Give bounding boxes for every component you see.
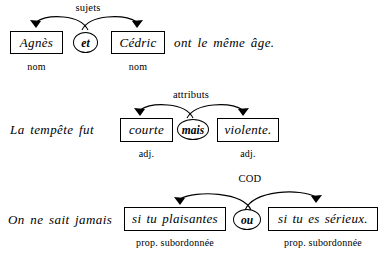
- function-label-row-1: sujets: [52, 3, 124, 14]
- conjunction-ellipse-row-1[interactable]: et: [73, 32, 98, 53]
- arc-left-row-2: [140, 105, 193, 118]
- leading-text-row-3: On ne sait jamais: [8, 213, 112, 226]
- arc-left-row-1: [36, 17, 88, 30]
- diagram-row-subjects: sujets Agnès et Cédric ont le même âge. …: [0, 0, 385, 86]
- trailing-text-row-1: ont le même âge.: [174, 36, 274, 49]
- arrowhead-left-row-3: [174, 197, 185, 205]
- function-label-row-2: attributs: [155, 90, 227, 101]
- constituent-box-row-2-1[interactable]: violente.: [217, 118, 279, 142]
- constituent-box-row-3-0[interactable]: si tu plaisantes: [124, 207, 226, 231]
- pos-label-row-2-1: adj.: [217, 149, 279, 159]
- diagram-row-attributes: attributs La tempête fut courte mais vio…: [0, 86, 385, 166]
- arrowhead-left-row-2: [134, 108, 145, 116]
- pos-label-row-1-1: nom: [111, 62, 165, 72]
- pos-label-row-3-0: prop. subordonnée: [114, 238, 236, 248]
- conjunction-ellipse-row-2[interactable]: mais: [177, 119, 209, 140]
- arc-right-row-1: [82, 17, 137, 30]
- pos-label-row-1-0: nom: [10, 62, 63, 72]
- constituent-box-row-1-1[interactable]: Cédric: [111, 31, 165, 54]
- constituent-box-row-3-1[interactable]: si tu es sérieux.: [268, 207, 378, 231]
- diagram-row-cod: COD On ne sait jamais si tu plaisantes o…: [0, 166, 385, 259]
- arrowhead-right-row-3: [311, 195, 322, 203]
- pos-label-row-2-0: adj.: [120, 149, 173, 159]
- leading-text-row-2: La tempête fut: [10, 123, 94, 136]
- function-label-row-3: COD: [214, 174, 286, 185]
- arrowhead-right-row-2: [238, 108, 249, 116]
- diagram-canvas: sujets Agnès et Cédric ont le même âge. …: [0, 0, 385, 259]
- conjunction-ellipse-row-3[interactable]: ou: [233, 209, 261, 230]
- pos-label-row-3-1: prop. subordonnée: [262, 238, 384, 248]
- arrowhead-left-row-1: [30, 20, 41, 28]
- constituent-box-row-1-0[interactable]: Agnès: [10, 31, 63, 54]
- constituent-box-row-2-0[interactable]: courte: [120, 118, 173, 142]
- arrowhead-right-row-1: [132, 20, 143, 28]
- arc-right-row-2: [187, 105, 243, 118]
